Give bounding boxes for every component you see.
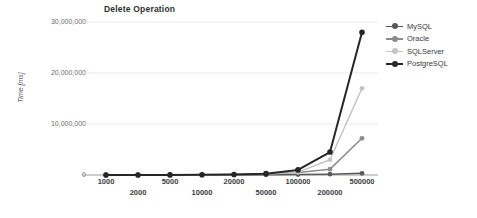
data-point xyxy=(360,86,365,91)
data-point xyxy=(328,157,333,162)
y-axis-tick-labels: 010,000,00020,000,00030,000,000 xyxy=(26,0,86,218)
plot-area xyxy=(90,22,378,175)
legend-item-oracle[interactable]: Oracle xyxy=(386,33,476,46)
legend-label: SQLServer xyxy=(407,47,444,56)
data-point xyxy=(295,167,301,173)
plot-svg xyxy=(90,22,378,175)
y-tick-label: 30,000,000 xyxy=(28,18,86,25)
data-point xyxy=(328,167,333,172)
series-sqlserver xyxy=(104,86,365,177)
data-point xyxy=(327,149,333,155)
series-oracle xyxy=(104,136,365,177)
series-line xyxy=(106,32,362,175)
x-tick-label: 5000 xyxy=(162,177,179,186)
series-line xyxy=(106,88,362,175)
series-postgresql xyxy=(103,29,365,177)
legend-label: MySQL xyxy=(407,22,432,31)
legend-label: Oracle xyxy=(407,34,429,43)
legend-item-postgresql[interactable]: PostgreSQL xyxy=(386,58,476,71)
x-tick-label: 2000 xyxy=(130,188,147,197)
data-point xyxy=(360,136,365,141)
x-tick-label: 20000 xyxy=(224,177,245,186)
legend-item-sqlserver[interactable]: SQLServer xyxy=(386,45,476,58)
chart-title: Delete Operation xyxy=(104,4,175,14)
y-axis-title: Time [ms] xyxy=(17,58,24,118)
chart-legend: MySQLOracleSQLServerPostgreSQL xyxy=(386,20,476,70)
legend-label: PostgreSQL xyxy=(407,59,448,68)
x-tick-label: 1000 xyxy=(98,177,115,186)
x-tick-label: 50000 xyxy=(256,188,277,197)
legend-marker-icon xyxy=(386,22,403,31)
data-point xyxy=(359,29,365,35)
y-tick-label: 20,000,000 xyxy=(28,69,86,76)
legend-item-mysql[interactable]: MySQL xyxy=(386,20,476,33)
x-tick-label: 500000 xyxy=(349,177,374,186)
legend-marker-icon xyxy=(386,47,403,56)
legend-marker-icon xyxy=(386,59,403,68)
x-tick-label: 100000 xyxy=(285,177,310,186)
x-tick-label: 200000 xyxy=(317,188,342,197)
chart-container: Delete Operation Time [ms] 010,000,00020… xyxy=(0,0,477,218)
x-axis-tick-labels: 1000200050001000020000500001000002000005… xyxy=(90,175,378,199)
y-tick-label: 10,000,000 xyxy=(28,120,86,127)
y-tick-label: 0 xyxy=(28,171,86,178)
legend-marker-icon xyxy=(386,34,403,43)
x-tick-label: 10000 xyxy=(192,188,213,197)
